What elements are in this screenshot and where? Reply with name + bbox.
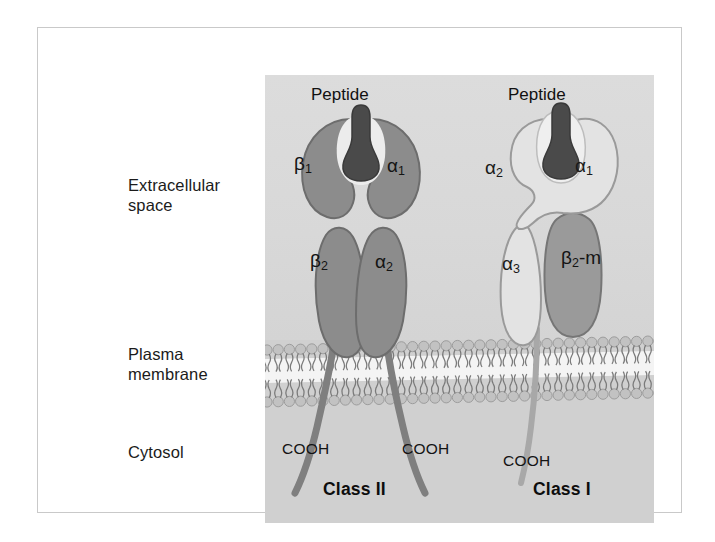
domain-label-class-ii-alpha2: α2 <box>375 251 393 274</box>
region-label-plasma-membrane: Plasma membrane <box>128 344 208 384</box>
greek-beta: β <box>294 153 305 174</box>
terminus-label-class-ii-left: COOH <box>282 440 329 458</box>
peptide-label-class-ii: Peptide <box>311 85 369 105</box>
diagram-panel: Peptide Peptide β1 α1 β2 α2 α2 α1 α3 β2-… <box>265 75 654 523</box>
region-label-extracellular-space: Extracellular space <box>128 175 220 215</box>
subscript-3: 3 <box>513 262 520 276</box>
class-i-molecule <box>501 103 618 483</box>
domain-label-class-i-alpha1: α1 <box>575 155 593 178</box>
class-i-title: Class I <box>533 479 591 500</box>
greek-beta: β <box>561 247 572 268</box>
subscript-2: 2 <box>386 260 393 274</box>
terminus-label-class-i: COOH <box>503 452 550 470</box>
domain-label-class-ii-beta2: β2 <box>310 250 328 273</box>
class-i-domain-alpha3 <box>501 223 541 345</box>
class-i-domain-beta2-microglobulin <box>545 213 602 337</box>
subscript-1: 1 <box>305 162 312 176</box>
greek-alpha: α <box>375 251 386 272</box>
subscript-1: 1 <box>398 164 405 178</box>
greek-alpha: α <box>502 253 513 274</box>
subscript-2: 2 <box>321 259 328 273</box>
domain-label-class-ii-alpha1: α1 <box>387 155 405 178</box>
class-ii-molecule <box>295 105 425 493</box>
domain-label-class-i-alpha3: α3 <box>502 253 520 276</box>
terminus-label-class-ii-right: COOH <box>402 440 449 458</box>
greek-alpha: α <box>485 157 496 178</box>
domain-label-class-i-alpha2: α2 <box>485 157 503 180</box>
greek-alpha: α <box>575 155 586 176</box>
class-ii-title: Class II <box>323 479 386 500</box>
greek-alpha: α <box>387 155 398 176</box>
domain-label-class-i-beta2-microglobulin: β2-m <box>561 247 601 270</box>
figure-frame: Extracellular space Plasma membrane Cyto… <box>37 27 682 513</box>
domain-label-class-ii-beta1: β1 <box>294 153 312 176</box>
region-label-cytosol: Cytosol <box>128 442 184 462</box>
subscript-1: 1 <box>586 164 593 178</box>
subscript-2: 2 <box>496 166 503 180</box>
subscript-2: 2 <box>572 256 579 270</box>
suffix-m: -m <box>579 247 601 268</box>
class-ii-domain-alpha2 <box>356 228 406 357</box>
peptide-label-class-i: Peptide <box>508 85 566 105</box>
greek-beta: β <box>310 250 321 271</box>
